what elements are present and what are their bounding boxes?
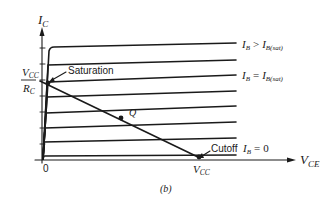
- y-intercept-label: VCC RC: [21, 66, 40, 96]
- y-axis-label: IC: [37, 12, 49, 29]
- curve-ib-zero: [43, 155, 236, 159]
- svg-text:RC: RC: [22, 82, 36, 96]
- saturation-point: [46, 81, 51, 86]
- q-point: [119, 116, 124, 121]
- saturation-label: Saturation: [68, 65, 114, 76]
- svg-text:VCC: VCC: [22, 66, 40, 80]
- x-intercept-label: VCC: [193, 163, 211, 177]
- curve-ib-sat: [43, 75, 236, 159]
- figure-caption: (b): [160, 183, 172, 195]
- bjt-characteristic-diagram: IC VCE 0 VCC RC VCC Saturation Cutoff Q …: [0, 0, 330, 210]
- cutoff-point: [197, 155, 202, 160]
- origin-label: 0: [43, 163, 49, 174]
- label-ib-sat: IB=IB(sat): [241, 69, 284, 83]
- cutoff-label: Cutoff: [211, 143, 238, 154]
- x-axis-arrow-icon: [287, 158, 296, 163]
- curve-ib-3: [43, 106, 236, 159]
- x-axis-label: VCE: [300, 152, 320, 169]
- q-point-label: Q: [129, 107, 137, 118]
- saturation-pointer: [52, 72, 66, 80]
- label-ib-zero: IB=0: [242, 142, 269, 156]
- collector-curves: [43, 43, 236, 159]
- label-ib-above-sat: IB>IB(sat): [241, 38, 284, 52]
